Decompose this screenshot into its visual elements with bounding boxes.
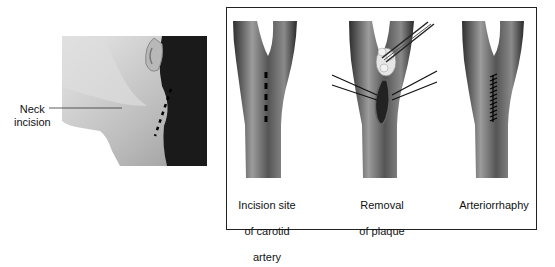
artery-plaque-removal — [332, 21, 437, 178]
caption-line: Arteriorrhaphy — [458, 199, 530, 212]
caption-line: artery — [232, 251, 302, 264]
caption-incision-site: Incision site of carotid artery — [232, 186, 302, 267]
caption-removal-of-plaque: Removal of plaque — [350, 186, 414, 251]
caption-line: of plaque — [350, 225, 414, 238]
caption-arteriorrhaphy: Arteriorrhaphy — [458, 186, 530, 225]
caption-line: of carotid — [232, 225, 302, 238]
artery-incision-site — [233, 21, 297, 178]
artery-arteriorrhaphy — [462, 21, 524, 178]
caption-line: Removal — [350, 199, 414, 212]
caption-line: Incision site — [232, 199, 302, 212]
